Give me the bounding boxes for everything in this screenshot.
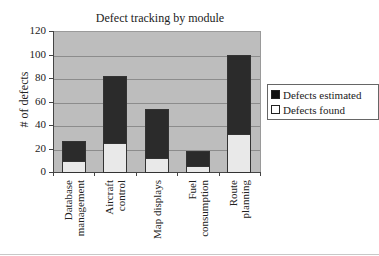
- y-tick: [49, 78, 53, 79]
- x-tick: [177, 172, 178, 176]
- y-tick: [49, 55, 53, 56]
- x-tick: [136, 172, 137, 176]
- bar-defects-found: [145, 158, 169, 173]
- y-tick-label: 100: [14, 48, 46, 60]
- bar-defects-estimated: [145, 109, 169, 159]
- y-tick-label: 40: [14, 118, 46, 130]
- legend-label-found: Defects found: [283, 104, 345, 116]
- y-tick: [49, 31, 53, 32]
- y-tick-label: 0: [14, 165, 46, 177]
- bar-defects-estimated: [186, 151, 210, 167]
- legend: Defects estimated Defects found: [267, 84, 379, 120]
- y-tick-label: 60: [14, 95, 46, 107]
- y-tick-label: 80: [14, 71, 46, 83]
- legend-item-estimated: Defects estimated: [271, 88, 362, 101]
- y-tick-label: 20: [14, 142, 46, 154]
- x-tick: [94, 172, 95, 176]
- bar-defects-found: [103, 143, 127, 173]
- bar-defects-estimated: [227, 55, 251, 136]
- x-tick-label: Routeplanning: [227, 180, 277, 230]
- y-tick: [49, 102, 53, 103]
- legend-swatch-estimated: [271, 90, 280, 99]
- x-tick: [260, 172, 261, 176]
- legend-item-found: Defects found: [271, 103, 345, 116]
- y-tick: [49, 125, 53, 126]
- y-tick: [49, 149, 53, 150]
- bottom-divider: [0, 254, 379, 255]
- bar-defects-found: [227, 134, 251, 173]
- bar-defects-estimated: [62, 141, 86, 162]
- bar-defects-estimated: [103, 76, 127, 144]
- bar-defects-found: [62, 161, 86, 173]
- x-tick: [219, 172, 220, 176]
- y-tick-label: 120: [14, 24, 46, 36]
- x-tick: [53, 172, 54, 176]
- legend-swatch-found: [271, 105, 280, 114]
- x-tick-label: Aircraftcontrol: [103, 180, 153, 230]
- chart-title: Defect tracking by module: [60, 11, 260, 26]
- legend-label-estimated: Defects estimated: [283, 89, 362, 101]
- y-axis: [53, 31, 54, 173]
- bar-defects-found: [186, 166, 210, 173]
